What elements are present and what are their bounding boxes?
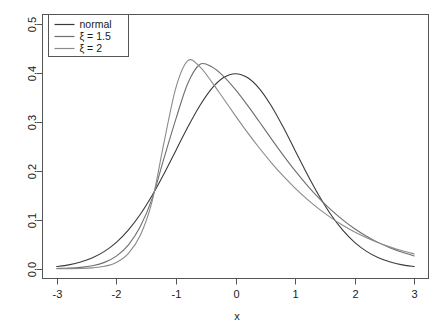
x-tick-label: 2 — [352, 288, 358, 300]
x-tick-label: -2 — [112, 288, 122, 300]
y-tick-label: 0.0 — [26, 262, 38, 277]
y-tick-label: 0.2 — [26, 164, 38, 179]
x-tick-label: 3 — [411, 288, 417, 300]
x-tick-label: 1 — [292, 288, 298, 300]
density-plot: -3-2-10123 0.00.10.20.30.40.5 x normalξ … — [0, 0, 447, 335]
chart-legend: normalξ = 1.5ξ = 2 — [49, 15, 129, 57]
legend-label: normal — [80, 18, 112, 30]
legend-label: ξ = 1.5 — [80, 30, 111, 42]
y-tick-label: 0.4 — [26, 66, 38, 81]
x-axis-title: x — [234, 310, 240, 322]
legend-label: ξ = 2 — [80, 42, 103, 54]
x-tick-label: -3 — [53, 288, 63, 300]
y-tick-label: 0.1 — [26, 213, 38, 228]
y-tick-label: 0.3 — [26, 115, 38, 130]
x-tick-label: 0 — [233, 288, 239, 300]
chart-container: -3-2-10123 0.00.10.20.30.40.5 x normalξ … — [0, 0, 447, 335]
x-tick-label: -1 — [172, 288, 182, 300]
y-tick-label: 0.5 — [26, 17, 38, 32]
